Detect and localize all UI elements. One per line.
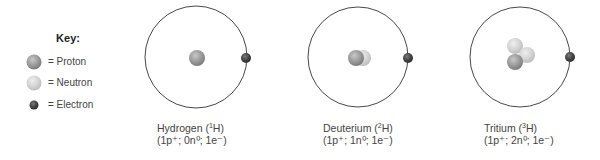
key-electron-icon <box>30 101 39 110</box>
hydrogen-atom <box>145 6 251 108</box>
proton-icon <box>189 50 205 66</box>
key-label-proton: = Proton <box>48 56 86 67</box>
key-neutron-icon <box>27 76 42 91</box>
deuterium-composition: (1p⁺; 1n⁰; 1e⁻) <box>323 134 393 146</box>
tritium-composition: (1p⁺; 2n⁰; 1e⁻) <box>484 134 554 146</box>
hydrogen-composition: (1p⁺; 0n⁰; 1e⁻) <box>157 134 227 146</box>
key-title: Key: <box>50 32 86 44</box>
hydrogen-name: Hydrogen (1H) <box>157 122 227 134</box>
key-label-electron: = Electron <box>48 99 93 110</box>
electron-icon <box>403 53 413 63</box>
proton-icon <box>507 54 523 70</box>
deuterium-atom <box>308 7 413 107</box>
deuterium-name: Deuterium (2H) <box>323 122 393 134</box>
electron-icon <box>241 53 251 63</box>
hydrogen-caption: Hydrogen (1H) (1p⁺; 0n⁰; 1e⁻) <box>157 122 227 146</box>
deuterium-caption: Deuterium (2H) (1p⁺; 1n⁰; 1e⁻) <box>323 122 393 146</box>
tritium-atom <box>470 7 575 107</box>
tritium-caption: Tritium (3H) (1p⁺; 2n⁰; 1e⁻) <box>484 122 554 146</box>
proton-icon <box>348 50 364 66</box>
key-label-neutron: = Neutron <box>48 77 92 88</box>
electron-icon <box>565 52 575 62</box>
key-proton-icon <box>27 55 42 70</box>
tritium-name: Tritium (3H) <box>484 122 554 134</box>
